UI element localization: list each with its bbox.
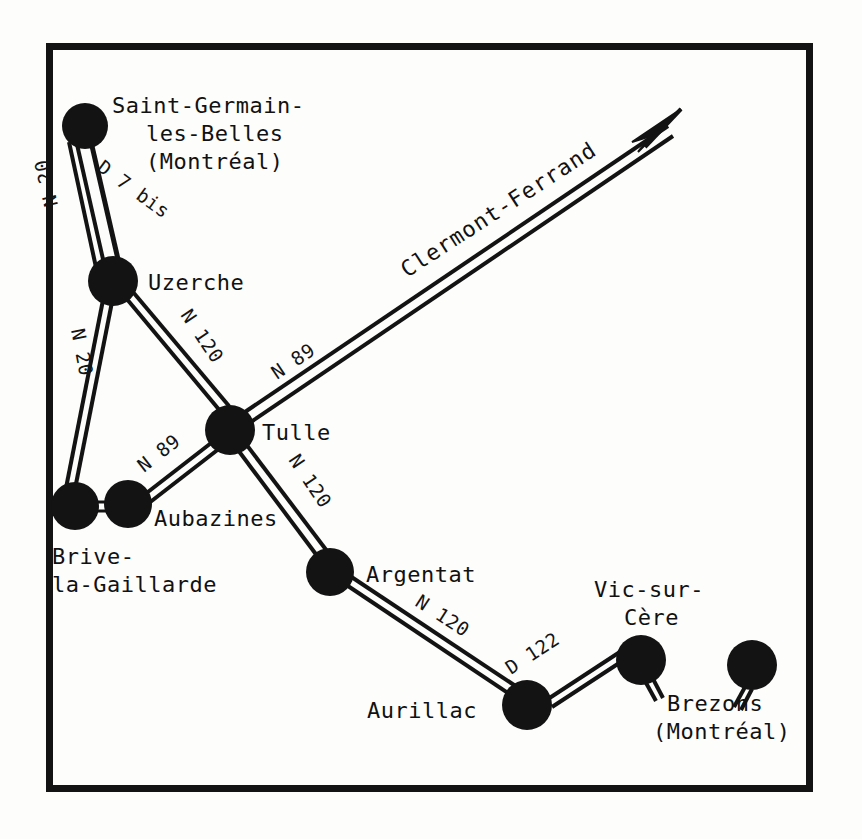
road-n20 xyxy=(69,140,105,272)
label-vic-line2: Cère xyxy=(624,605,679,630)
label-aubazines: Aubazines xyxy=(154,506,278,531)
node-aubazines[interactable] xyxy=(104,480,152,528)
label-saint-germain-line3: (Montréal) xyxy=(146,149,283,174)
label-road-n20-lower: N 20 xyxy=(67,327,98,378)
label-tulle: Tulle xyxy=(262,420,331,445)
node-argentat[interactable] xyxy=(306,548,354,596)
place-labels-layer: Saint-Germain- les-Belles (Montréal) Uze… xyxy=(52,93,790,744)
node-uzerche[interactable] xyxy=(88,256,138,306)
label-clermont-ferrand: Clermont-Ferrand xyxy=(396,137,601,282)
label-road-n120-uzerche-tulle: N 120 xyxy=(177,305,229,367)
label-road-n20-upper: N 20 xyxy=(30,158,62,209)
road-labels-layer: D 7 bis N 20 N 20 N 120 N 89 N 89 N 120 … xyxy=(30,137,601,678)
label-road-d122: D 122 xyxy=(501,627,563,678)
label-brezons-line2: (Montréal) xyxy=(653,719,790,744)
road-n120-argentat-aurillac xyxy=(345,576,520,697)
label-aurillac: Aurillac xyxy=(367,698,477,723)
label-brive-line2: la-Gaillarde xyxy=(52,572,217,597)
map-canvas: Saint-Germain- les-Belles (Montréal) Uze… xyxy=(0,0,862,839)
map-figure: Saint-Germain- les-Belles (Montréal) Uze… xyxy=(0,0,862,839)
label-argentat: Argentat xyxy=(366,562,476,587)
node-saint-germain[interactable] xyxy=(62,103,108,149)
label-brezons-line1: Brezons xyxy=(667,691,763,716)
label-saint-germain-line2: les-Belles xyxy=(146,121,283,146)
label-vic-line1: Vic-sur- xyxy=(594,577,704,602)
road-n89-tulle-clermont xyxy=(242,126,673,424)
label-brive-line1: Brive- xyxy=(52,544,134,569)
label-road-n89-tulle-clermont: N 89 xyxy=(267,338,319,383)
node-tulle[interactable] xyxy=(205,405,255,455)
node-vic-sur-cere[interactable] xyxy=(616,635,666,685)
node-aurillac[interactable] xyxy=(502,680,552,730)
label-saint-germain-line1: Saint-Germain- xyxy=(112,93,304,118)
node-brezons[interactable] xyxy=(727,640,777,690)
label-uzerche: Uzerche xyxy=(148,270,244,295)
node-brive[interactable] xyxy=(51,482,99,530)
